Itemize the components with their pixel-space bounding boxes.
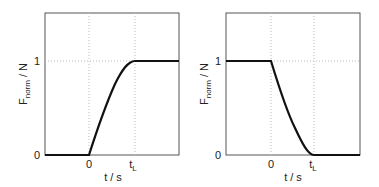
left-ylabel: Fnorm / N xyxy=(17,63,32,105)
left-ytick-0: 0 xyxy=(34,149,40,161)
right-xtick-tL: tL xyxy=(309,158,317,173)
figure: 1 0 0 tL t / s Fnorm / N 1 0 0 tL t / s … xyxy=(0,0,379,187)
left-plot: 1 0 0 tL t / s Fnorm / N xyxy=(17,13,179,183)
left-xtick-0: 0 xyxy=(86,158,92,170)
right-xlabel: t / s xyxy=(284,171,302,183)
right-ytick-1: 1 xyxy=(215,55,221,67)
left-xlabel: t / s xyxy=(104,171,122,183)
left-ytick-1: 1 xyxy=(34,55,40,67)
right-xtick-0: 0 xyxy=(268,158,274,170)
left-xtick-tL: tL xyxy=(129,158,137,173)
right-plot: 1 0 0 tL t / s Fnorm / N xyxy=(198,13,360,183)
right-ytick-0: 0 xyxy=(215,149,221,161)
right-ylabel: Fnorm / N xyxy=(198,63,213,105)
right-axes-box xyxy=(226,13,360,155)
left-axes-box xyxy=(45,13,179,155)
